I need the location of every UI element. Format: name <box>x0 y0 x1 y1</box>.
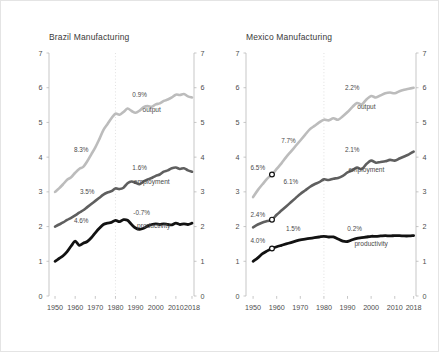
x-tick-label: 1980 <box>316 303 332 312</box>
series-label-output: output <box>357 103 376 111</box>
growth-annotation-output: 2.2% <box>345 84 360 91</box>
series-line-output <box>253 88 414 197</box>
x-tick-label: 1990 <box>340 303 356 312</box>
y-tick-label-right: 1 <box>423 257 427 266</box>
growth-annotation-productivity: -0.7% <box>133 209 150 216</box>
y-tick-label-left: 3 <box>39 187 43 196</box>
series-line-productivity <box>55 220 192 262</box>
x-tick-label: 1970 <box>292 303 308 312</box>
growth-annotation-employment: 6.1% <box>284 178 299 185</box>
y-tick-label-right: 1 <box>201 257 205 266</box>
x-tick-label: 2018 <box>184 303 200 312</box>
y-tick-label-left: 6 <box>39 83 43 92</box>
y-tick-label-left: 7 <box>236 49 240 58</box>
y-tick-label-left: 4 <box>39 153 43 162</box>
y-tick-label-right: 7 <box>201 49 205 58</box>
x-tick-label: 2000 <box>363 303 379 312</box>
panel-brazil: Brazil Manufacturing 0011223344556677195… <box>1 1 220 352</box>
y-tick-label-left: 2 <box>236 222 240 231</box>
y-tick-label-right: 0 <box>423 292 427 301</box>
growth-annotation-employment: 3.5% <box>80 188 95 195</box>
y-tick-label-left: 4 <box>236 153 240 162</box>
data-point-marker-employment <box>270 217 275 222</box>
y-tick-label-right: 5 <box>423 118 427 127</box>
y-tick-label-left: 2 <box>39 222 43 231</box>
growth-annotation-productivity: 4.6% <box>74 217 89 224</box>
growth-annotation-output: 7.7% <box>281 137 296 144</box>
series-label-output: output <box>143 106 162 114</box>
plot-area-mexico: 0011223344556677195019601970198019902000… <box>220 1 439 352</box>
x-tick-label: 2000 <box>148 303 164 312</box>
y-tick-label-right: 2 <box>201 222 205 231</box>
y-tick-label-right: 2 <box>423 222 427 231</box>
growth-annotation-employment: 1.6% <box>132 164 147 171</box>
data-point-marker-output <box>270 172 275 177</box>
x-tick-label: 2010 <box>168 303 184 312</box>
y-tick-label-right: 3 <box>201 187 205 196</box>
x-tick-label: 2010 <box>387 303 403 312</box>
series-label-employment: employment <box>134 178 170 186</box>
x-tick-label: 1990 <box>128 303 144 312</box>
y-tick-label-right: 5 <box>201 118 205 127</box>
x-tick-label: 2018 <box>406 303 422 312</box>
x-tick-label: 1960 <box>269 303 285 312</box>
series-label-employment: employment <box>348 166 384 174</box>
growth-annotation-output: 8.3% <box>74 146 89 153</box>
series-line-productivity <box>253 236 414 262</box>
growth-annotation-output: 6.5% <box>251 164 266 171</box>
y-tick-label-right: 0 <box>201 292 205 301</box>
y-tick-label-right: 3 <box>423 187 427 196</box>
y-tick-label-left: 5 <box>39 118 43 127</box>
growth-annotation-productivity: 1.5% <box>286 225 301 232</box>
growth-annotation-employment: 2.4% <box>251 211 266 218</box>
growth-annotation-productivity: 0.2% <box>347 225 362 232</box>
x-tick-label: 1970 <box>87 303 103 312</box>
y-tick-label-right: 6 <box>201 83 205 92</box>
chart-figure: Brazil Manufacturing 0011223344556677195… <box>0 0 439 352</box>
y-tick-label-right: 7 <box>423 49 427 58</box>
y-tick-label-right: 4 <box>423 153 427 162</box>
y-tick-label-left: 0 <box>236 292 240 301</box>
x-tick-label: 1960 <box>67 303 83 312</box>
y-tick-label-left: 1 <box>39 257 43 266</box>
growth-annotation-productivity: 4.0% <box>251 237 266 244</box>
y-tick-label-left: 1 <box>236 257 240 266</box>
y-tick-label-left: 7 <box>39 49 43 58</box>
y-tick-label-left: 3 <box>236 187 240 196</box>
x-tick-label: 1950 <box>47 303 63 312</box>
data-point-marker-productivity <box>270 246 275 251</box>
y-tick-label-left: 0 <box>39 292 43 301</box>
x-tick-label: 1950 <box>245 303 261 312</box>
plot-area-brazil: 0011223344556677195019601970198019902000… <box>1 1 220 352</box>
y-tick-label-left: 6 <box>236 83 240 92</box>
series-line-employment <box>253 152 414 228</box>
series-line-output <box>55 94 192 192</box>
series-label-productivity: productivity <box>137 222 171 230</box>
series-label-productivity: productivity <box>354 240 388 248</box>
y-tick-label-right: 4 <box>201 153 205 162</box>
y-tick-label-right: 6 <box>423 83 427 92</box>
growth-annotation-output: 0.9% <box>132 91 147 98</box>
panel-mexico: Mexico Manufacturing 0011223344556677195… <box>220 1 439 352</box>
y-tick-label-left: 5 <box>236 118 240 127</box>
growth-annotation-employment: 2.1% <box>345 146 360 153</box>
x-tick-label: 1980 <box>107 303 123 312</box>
